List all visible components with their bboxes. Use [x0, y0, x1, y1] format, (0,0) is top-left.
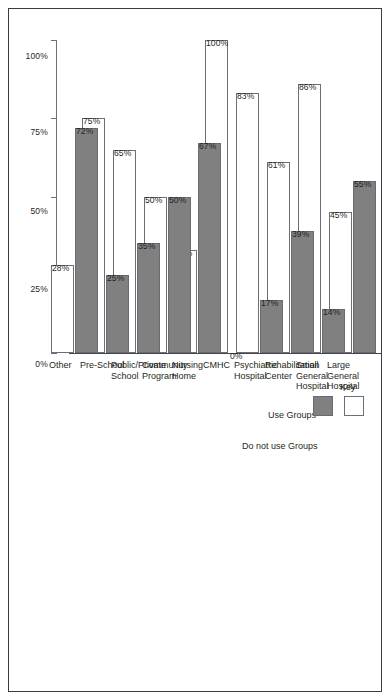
category-label-line: Hospital [234, 371, 278, 382]
bar-chart: 0%25%50%75%100% 55%45%14%86%39%61%17%83%… [18, 18, 392, 700]
category-label: Other [49, 360, 72, 371]
bar-do-not-use-groups [291, 231, 314, 353]
axis-tick-label: 0% [35, 359, 48, 369]
bar-value-label: 72% [76, 126, 93, 136]
legend-swatch-use-groups [344, 396, 364, 416]
bar-use-groups [51, 265, 74, 353]
bar-do-not-use-groups [199, 143, 222, 353]
legend-swatch-do-not-use-groups [313, 396, 333, 416]
category-label-line: Large [327, 360, 360, 371]
category-label: Pre-School [80, 360, 125, 371]
bar-do-not-use-groups [353, 181, 376, 353]
bar-value-label: 25% [107, 273, 124, 283]
category-label-line: Pre-School [80, 360, 125, 371]
figure-frame: 0%25%50%75%100% 55%45%14%86%39%61%17%83%… [8, 8, 382, 692]
bar-value-label: 14% [323, 307, 340, 317]
bar-value-label: 17% [261, 298, 278, 308]
axis-tick-label: 100% [25, 51, 48, 61]
bar-do-not-use-groups [137, 243, 160, 353]
bar-value-label: 55% [354, 179, 371, 189]
bar-group: 72%28% [51, 18, 98, 700]
axis-tick-label: 50% [30, 205, 48, 215]
category-label-line: General [327, 371, 360, 382]
bar-value-label: 28% [52, 263, 69, 273]
category-label-line: School [111, 371, 166, 382]
chart-legend: Key Use Groups Do not use Groups [184, 396, 364, 516]
bar-value-label: 39% [292, 229, 309, 239]
category-label-line: Psychiatric [234, 360, 278, 371]
legend-label-use-groups: Use Groups [268, 410, 316, 420]
axis-tick-label: 25% [30, 284, 48, 294]
bar-do-not-use-groups [106, 275, 129, 353]
category-label-line: Other [49, 360, 72, 371]
legend-label-do-not-use-groups: Do not use Groups [242, 441, 318, 451]
plot-area: 0%25%50%75%100% 55%45%14%86%39%61%17%83%… [18, 18, 392, 700]
category-label-line: CMHC [203, 360, 230, 371]
bar-do-not-use-groups [75, 128, 98, 353]
bar-value-label: 35% [138, 241, 155, 251]
category-label: PsychiatricHospital [234, 360, 278, 381]
bar-value-label: 50% [169, 195, 186, 205]
bar-value-label: 67% [200, 141, 217, 151]
legend-title: Key [340, 382, 356, 392]
bar-do-not-use-groups [168, 197, 191, 354]
category-label-line: Hospital [296, 381, 329, 392]
axis-tick-label: 75% [30, 127, 48, 137]
category-label: CMHC [203, 360, 230, 371]
